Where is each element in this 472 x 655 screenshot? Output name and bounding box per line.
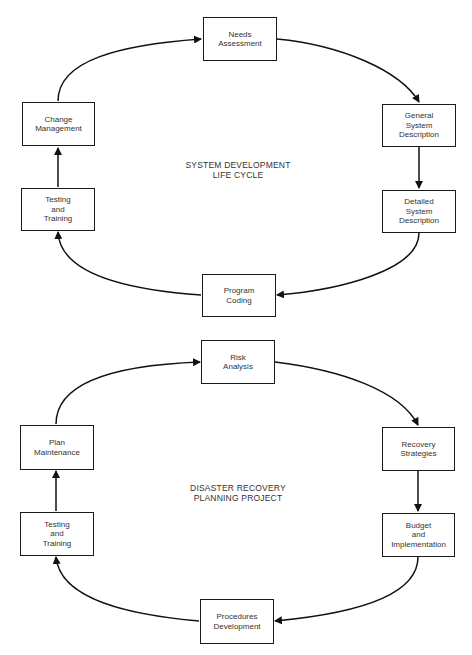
node-label: Analysis (223, 362, 253, 372)
node-label: Implementation (391, 540, 446, 550)
node-label: Management (35, 124, 82, 134)
node-procedures-development: Procedures Development (200, 599, 274, 644)
node-label: Recovery (402, 440, 436, 450)
arrow-change-to-needs (58, 39, 201, 101)
node-label: Assessment (218, 39, 262, 49)
diagram-title-disaster-recovery: DISASTER RECOVERY PLANNING PROJECT (178, 483, 298, 503)
node-label: Training (44, 214, 73, 224)
arrow-budget-to-procedures (275, 557, 418, 621)
arrow-needs-to-general (277, 39, 419, 102)
node-label: Testing (44, 520, 69, 530)
node-needs-assessment: Needs Assessment (203, 17, 277, 61)
node-label: System (406, 121, 433, 131)
node-label: Strategies (400, 449, 436, 459)
node-risk-analysis: Risk Analysis (201, 340, 275, 384)
diagram-title-system-development: SYSTEM DEVELOPMENT LIFE CYCLE (178, 160, 298, 180)
node-label: and (50, 529, 63, 539)
arrow-maintenance-to-risk (56, 362, 200, 424)
title-line: DISASTER RECOVERY (178, 483, 298, 493)
node-testing-and-training-drp: Testing and Training (20, 512, 94, 556)
node-general-system-description: General System Description (382, 104, 456, 147)
title-line: SYSTEM DEVELOPMENT (178, 160, 298, 170)
node-plan-maintenance: Plan Maintenance (20, 425, 94, 470)
node-change-management: Change Management (22, 102, 95, 146)
node-program-coding: Program Coding (202, 274, 276, 317)
title-line: PLANNING PROJECT (178, 493, 298, 503)
node-label: System (406, 207, 433, 217)
arrow-procedures-to-testing (56, 557, 199, 621)
arrow-detailed-to-coding (277, 233, 419, 295)
node-label: Description (399, 216, 439, 226)
node-label: Program (224, 286, 255, 296)
title-line: LIFE CYCLE (178, 170, 298, 180)
node-label: Maintenance (34, 448, 80, 458)
node-label: Testing (45, 195, 70, 205)
node-label: Detailed (404, 197, 433, 207)
arrow-risk-to-recovery (275, 362, 418, 425)
node-label: Coding (226, 296, 251, 306)
node-label: Budget (406, 521, 431, 531)
node-label: Needs (228, 30, 251, 40)
node-label: and (51, 205, 64, 215)
node-label: Change (44, 115, 72, 125)
node-label: Procedures (217, 612, 258, 622)
node-recovery-strategies: Recovery Strategies (382, 427, 455, 471)
node-label: Training (43, 539, 72, 549)
node-testing-and-training: Testing and Training (21, 188, 95, 231)
node-budget-and-implementation: Budget and Implementation (382, 513, 455, 557)
node-label: Development (213, 622, 260, 632)
node-label: General (405, 111, 433, 121)
node-label: Description (399, 130, 439, 140)
node-detailed-system-description: Detailed System Description (382, 190, 456, 233)
node-label: Risk (230, 353, 246, 363)
node-label: and (412, 530, 425, 540)
node-label: Plan (49, 438, 65, 448)
arrow-coding-to-testing (58, 232, 201, 295)
